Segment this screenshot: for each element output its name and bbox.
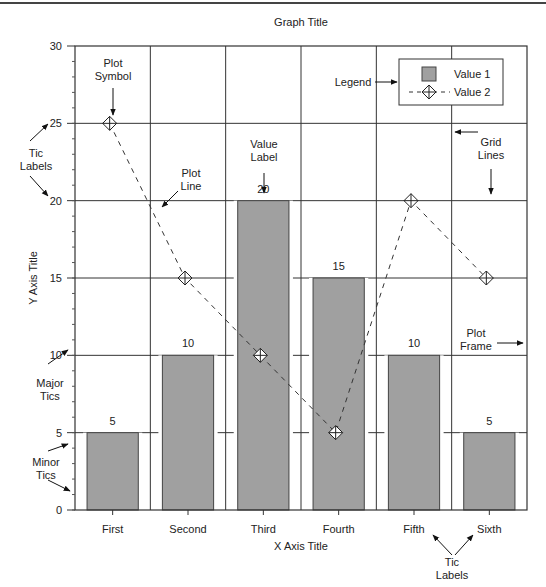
annotation-grid-lines: GridLines [478,136,505,161]
svg-text:Tics: Tics [36,469,56,481]
x-axis-title: X Axis Title [274,540,328,552]
svg-text:Grid: Grid [481,136,502,148]
svg-text:Tics: Tics [40,390,60,402]
svg-text:Plot: Plot [104,57,123,69]
annotation-value-label: ValueLabel [250,138,277,163]
annotation-plot-symbol: PlotSymbol [95,57,132,82]
x-tick-label: Fifth [403,523,424,535]
x-tick-label: Second [169,523,206,535]
annotation-tic-labels-y: TicLabels [20,147,53,172]
value-label: 20 [257,183,269,195]
svg-text:Value: Value [250,138,277,150]
svg-text:Major: Major [36,377,64,389]
svg-text:Label: Label [251,151,278,163]
value-label: 5 [110,415,116,427]
annotation-minor-tics: MinorTics [32,456,60,481]
svg-text:Line: Line [181,180,202,192]
bar [313,278,364,510]
arrow-icon [455,535,473,555]
annotation-major-tics: MajorTics [36,377,64,402]
legend-swatch-bar [422,67,436,81]
y-tick-label: 0 [56,504,62,516]
svg-text:Minor: Minor [32,456,60,468]
y-tick-label: 20 [50,195,62,207]
x-tick-label: Fourth [323,523,355,535]
chart: Graph Title 5102015105 051015202530 Firs… [0,0,546,587]
value-label: 5 [486,415,492,427]
x-tick-label: Third [251,523,276,535]
arrow-icon [48,444,68,451]
svg-text:Legend: Legend [335,76,372,88]
svg-text:Labels: Labels [436,569,469,581]
svg-text:Symbol: Symbol [95,70,132,82]
annotation-plot-line: PlotLine [181,167,202,192]
legend-label-value2: Value 2 [454,86,491,98]
y-axis-title: Y Axis Title [27,251,39,305]
y-axis: 051015202530 [50,40,75,516]
svg-text:Tic: Tic [445,556,460,568]
arrow-icon [30,124,48,141]
value-label: 10 [182,337,194,349]
svg-text:Lines: Lines [478,149,505,161]
legend: Value 1 Value 2 [399,59,503,105]
bar [162,355,213,510]
arrow-icon [162,191,178,207]
diamond-marker [178,271,192,285]
arrow-icon [30,176,48,196]
chart-title: Graph Title [274,16,328,28]
x-axis: FirstSecondThirdFourthFifthSixth [102,510,502,535]
annotation-plot-frame: PlotFrame [460,327,492,352]
svg-text:Plot: Plot [182,167,201,179]
diamond-marker [103,116,117,130]
annotation-tic-labels-x: TicLabels [436,556,469,581]
y-tick-label: 25 [50,117,62,129]
y-tick-label: 15 [50,272,62,284]
diamond-marker [404,194,418,208]
grid-lines [75,46,527,510]
x-tick-label: Sixth [477,523,501,535]
y-tick-label: 5 [56,427,62,439]
svg-text:Plot: Plot [467,327,486,339]
arrow-icon [433,535,452,555]
value-label: 10 [408,337,420,349]
svg-text:Labels: Labels [20,160,53,172]
arrow-icon [48,480,70,491]
value-label: 15 [333,260,345,272]
bar [388,355,439,510]
legend-label-value1: Value 1 [454,68,491,80]
bar [464,433,515,510]
svg-text:Frame: Frame [460,340,492,352]
annotation-legend: Legend [335,76,372,88]
y-tick-label: 30 [50,40,62,52]
x-tick-label: First [102,523,123,535]
bar [87,433,138,510]
svg-text:Tic: Tic [29,147,44,159]
